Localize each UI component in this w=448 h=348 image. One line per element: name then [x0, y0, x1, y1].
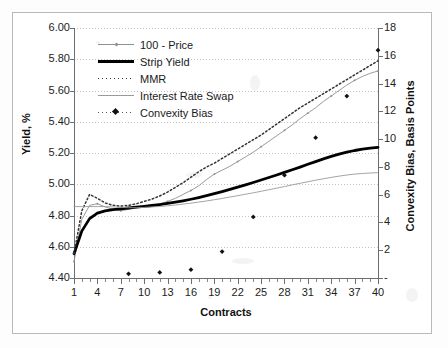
x-axis-minor-tick: [245, 279, 246, 282]
y-axis-left-tick-label: 4.40: [26, 271, 70, 283]
x-axis-minor-tick: [300, 279, 301, 282]
x-axis-tick-label: 7: [111, 286, 131, 298]
x-axis-major-tick: [97, 279, 98, 284]
legend-key-convexity-bias-icon: [96, 107, 136, 119]
series-line: [74, 147, 378, 253]
y-axis-right-tick-label: 10: [384, 132, 406, 144]
x-axis-minor-tick: [339, 279, 340, 282]
x-axis-tick-label: 28: [274, 286, 294, 298]
data-point-marker: [126, 271, 131, 276]
x-axis-title: Contracts: [74, 306, 378, 318]
y-axis-left-tick-label: 5.00: [26, 177, 70, 189]
plot-axis-bottom: [74, 278, 379, 279]
x-axis-major-tick: [74, 279, 75, 284]
x-axis-major-tick: [331, 279, 332, 284]
x-axis-minor-tick: [183, 279, 184, 282]
data-point-marker: [73, 260, 75, 262]
legend-item-interest-rate-swap: Interest Rate Swap: [96, 87, 266, 104]
x-axis-minor-tick: [222, 279, 223, 282]
y-axis-right-tick-label: 2: [384, 243, 406, 255]
x-axis-minor-tick: [175, 279, 176, 282]
chart-legend: 100 - Price Strip Yield MMR Interest Rat…: [96, 36, 266, 121]
x-axis-minor-tick: [230, 279, 231, 282]
y-axis-left-tick-label: 4.60: [26, 240, 70, 252]
y-axis-left-tick-label: 5.80: [26, 52, 70, 64]
x-axis-minor-tick: [347, 279, 348, 282]
data-point-marker: [189, 267, 194, 272]
legend-label: MMR: [140, 73, 166, 85]
chart-page: 4.404.604.805.005.205.405.605.806.00 -24…: [0, 0, 448, 348]
y-axis-right-tick-label: 4: [384, 215, 406, 227]
x-axis-minor-tick: [105, 279, 106, 282]
legend-key-strip-yield-icon: [96, 56, 136, 68]
y-axis-right-tick-label: 6: [384, 188, 406, 200]
x-axis-major-tick: [308, 279, 309, 284]
x-axis-tick-label: 37: [345, 286, 365, 298]
x-axis-major-tick: [378, 279, 379, 284]
x-axis-major-tick: [144, 279, 145, 284]
x-axis-tick-label: 13: [158, 286, 178, 298]
x-axis-tick-label: 25: [251, 286, 271, 298]
data-point-marker: [96, 203, 98, 205]
legend-key-mmr-icon: [96, 73, 136, 85]
x-axis-minor-tick: [90, 279, 91, 282]
x-axis-major-tick: [355, 279, 356, 284]
legend-label: Interest Rate Swap: [140, 90, 234, 102]
x-axis-minor-tick: [370, 279, 371, 282]
data-point-marker: [157, 270, 162, 275]
x-axis-major-tick: [284, 279, 285, 284]
legend-key-interest-rate-swap-icon: [96, 90, 136, 102]
y-axis-left-tick-label: 5.20: [26, 146, 70, 158]
scan-smudge: [406, 288, 418, 302]
plot-axis-right: [378, 28, 379, 279]
x-axis-major-tick: [238, 279, 239, 284]
x-axis-minor-tick: [129, 279, 130, 282]
y-axis-left-tick-label: 4.80: [26, 209, 70, 221]
data-point-marker: [251, 214, 256, 219]
x-axis-minor-tick: [292, 279, 293, 282]
x-axis-major-tick: [261, 279, 262, 284]
x-axis-tick-label: 16: [181, 286, 201, 298]
x-axis-tick-label: 10: [134, 286, 154, 298]
x-axis-minor-tick: [269, 279, 270, 282]
legend-key-100-price-icon: [96, 39, 136, 51]
legend-item-strip-yield: Strip Yield: [96, 53, 266, 70]
x-axis-major-tick: [191, 279, 192, 284]
x-axis-major-tick: [214, 279, 215, 284]
legend-label: Strip Yield: [140, 56, 190, 68]
y-axis-right-tick-label: 16: [384, 49, 406, 61]
y-axis-left-tick-label: 5.40: [26, 115, 70, 127]
x-axis-minor-tick: [199, 279, 200, 282]
x-axis-tick-label: 40: [368, 286, 388, 298]
x-axis-minor-tick: [82, 279, 83, 282]
legend-item-convexity-bias: Convexity Bias: [96, 104, 266, 121]
x-axis-minor-tick: [136, 279, 137, 282]
x-axis-minor-tick: [277, 279, 278, 282]
y-axis-right-tick-label: 18: [384, 21, 406, 33]
cut-off-header-text: [40, 0, 260, 11]
x-axis-minor-tick: [253, 279, 254, 282]
legend-label: Convexity Bias: [140, 107, 213, 119]
x-axis-minor-tick: [323, 279, 324, 282]
y-axis-left-tick-label: 5.60: [26, 84, 70, 96]
x-axis-minor-tick: [316, 279, 317, 282]
y-axis-right-tick-label: 14: [384, 77, 406, 89]
x-axis-tick-label: 22: [228, 286, 248, 298]
x-axis-tick-label: 1: [64, 286, 84, 298]
y-axis-right-tick-label: 8: [384, 160, 406, 172]
x-axis-minor-tick: [160, 279, 161, 282]
x-axis-major-tick: [168, 279, 169, 284]
x-axis-tick-label: 19: [204, 286, 224, 298]
legend-item-mmr: MMR: [96, 70, 266, 87]
y-axis-right-tick-label: 12: [384, 104, 406, 116]
y-axis-right-title: Convexity Bias, Basis Points: [404, 46, 416, 266]
x-axis-minor-tick: [207, 279, 208, 282]
legend-item-100-price: 100 - Price: [96, 36, 266, 53]
legend-label: 100 - Price: [140, 39, 193, 51]
y-axis-left-title: Yield, %: [20, 74, 32, 194]
x-axis-tick-label: 34: [321, 286, 341, 298]
data-point-marker: [220, 249, 225, 254]
x-axis-minor-tick: [113, 279, 114, 282]
x-axis-tick-label: 31: [298, 286, 318, 298]
x-axis-minor-tick: [152, 279, 153, 282]
